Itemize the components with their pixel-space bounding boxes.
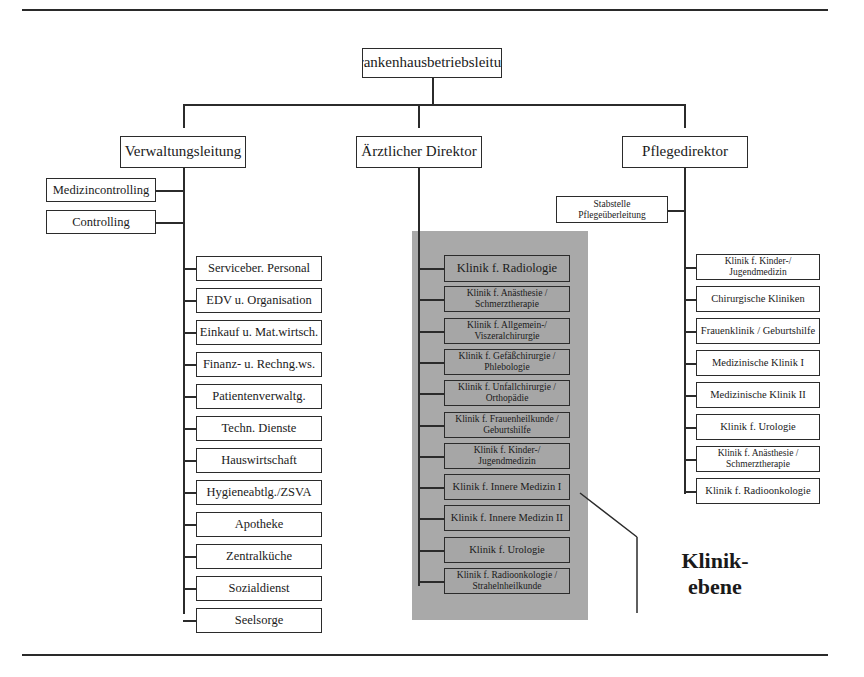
- clinic-level-label-line2: ebene: [660, 574, 770, 600]
- clinic-level-label: Klinik-ebene: [660, 548, 770, 600]
- clinic-level-label-line1: Klinik-: [660, 548, 770, 574]
